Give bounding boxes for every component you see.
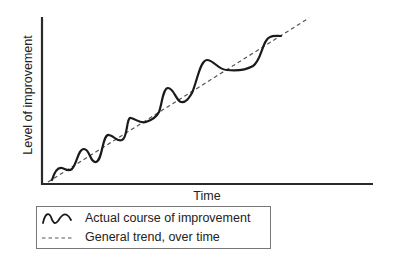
x-axis-label: Time <box>193 189 220 203</box>
legend-item-actual: Actual course of improvement <box>37 209 250 227</box>
legend-item-trend: General trend, over time <box>37 228 220 246</box>
dashed-line-icon <box>37 228 79 246</box>
wave-icon <box>37 209 79 227</box>
legend: Actual course of improvement General tre… <box>36 206 271 249</box>
legend-label-actual: Actual course of improvement <box>85 211 250 225</box>
y-axis-label: Level of improvement <box>21 35 35 155</box>
legend-label-trend: General trend, over time <box>85 230 220 244</box>
